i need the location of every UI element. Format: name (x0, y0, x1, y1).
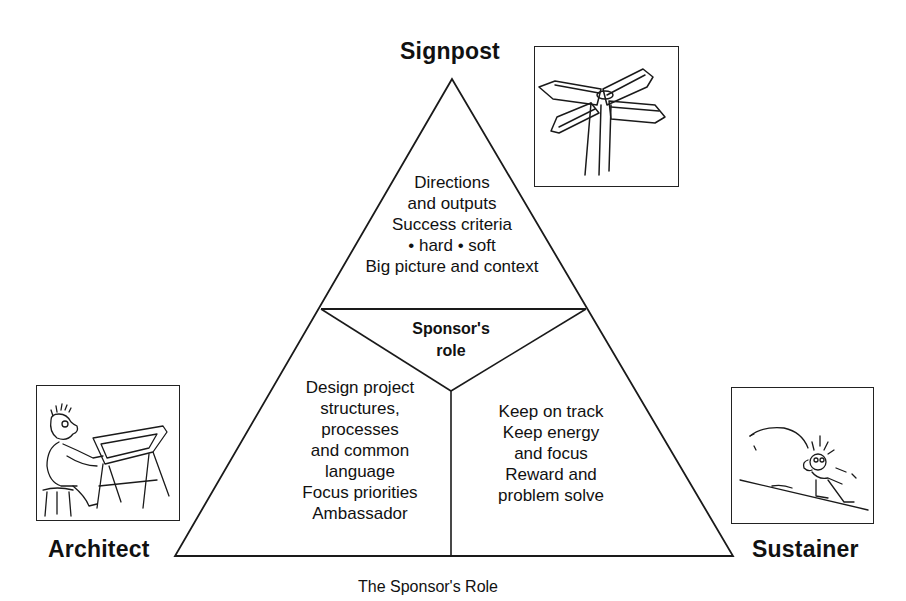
center-line-2: role (386, 340, 516, 362)
sustainer-item: Keep on track (478, 401, 624, 422)
sustainer-item: Reward and (478, 464, 624, 485)
signpost-item: Directions (345, 172, 559, 193)
architect-item: Focus priorities (275, 482, 445, 503)
architect-illustration-frame (36, 385, 180, 521)
signpost-item: Success criteria (345, 214, 559, 235)
sustainer-item: problem solve (478, 485, 624, 506)
sponsor-role-center: Sponsor's role (386, 318, 516, 362)
architect-icon (37, 386, 178, 519)
architect-item: Ambassador (275, 503, 445, 524)
architect-item: Design project (275, 377, 445, 398)
architect-item: structures, (275, 398, 445, 419)
signpost-illustration-frame (534, 46, 679, 187)
center-line-1: Sponsor's (386, 318, 516, 340)
signpost-icon (535, 47, 677, 185)
diagram-caption: The Sponsor's Role (358, 578, 498, 596)
sustainer-section-text: Keep on track Keep energy and focus Rewa… (478, 401, 624, 506)
architect-item: processes (275, 419, 445, 440)
signpost-item: Big picture and context (345, 256, 559, 277)
architect-item: language (275, 461, 445, 482)
signpost-section-text: Directions and outputs Success criteria … (345, 172, 559, 277)
architect-item: and common (275, 440, 445, 461)
signpost-item: and outputs (345, 193, 559, 214)
architect-label: Architect (48, 536, 150, 563)
architect-section-text: Design project structures, processes and… (275, 377, 445, 524)
sustainer-illustration-frame (731, 387, 874, 524)
sustainer-label: Sustainer (752, 536, 859, 563)
sustainer-icon (732, 388, 872, 522)
sustainer-item: Keep energy (478, 422, 624, 443)
signpost-item: • hard • soft (345, 235, 559, 256)
signpost-label: Signpost (400, 38, 500, 65)
sustainer-item: and focus (478, 443, 624, 464)
